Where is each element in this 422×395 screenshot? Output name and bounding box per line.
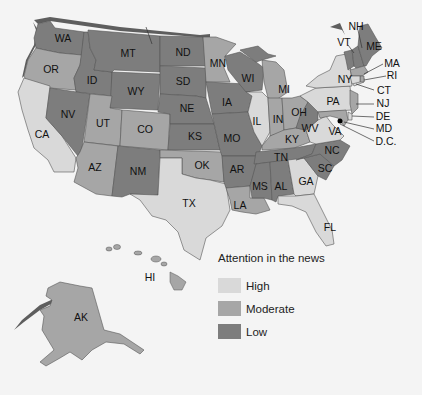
label-vt: VT [337, 36, 351, 48]
legend-label-moderate: Moderate [246, 303, 295, 315]
label-sd: SD [176, 75, 191, 87]
legend-item-moderate: Moderate [218, 297, 418, 320]
label-ks: KS [188, 130, 202, 142]
label-wi: WI [242, 72, 255, 84]
dc-marker [338, 119, 343, 124]
legend-label-low: Low [246, 326, 267, 338]
label-va: VA [328, 125, 341, 137]
label-me: ME [366, 40, 382, 52]
label-mn: MN [210, 57, 226, 69]
label-az: AZ [88, 161, 102, 173]
state-hi[interactable] [106, 245, 186, 291]
label-wv: WV [302, 122, 319, 134]
label-al: AL [275, 180, 288, 192]
label-ct: CT [377, 84, 392, 96]
label-nv: NV [61, 108, 76, 120]
label-ga: GA [298, 175, 313, 187]
label-mo: MO [224, 132, 241, 144]
legend-swatch-moderate [218, 301, 241, 316]
state-ri[interactable] [360, 76, 364, 82]
label-id: ID [87, 74, 98, 86]
legend-swatch-low [218, 324, 241, 339]
label-nd: ND [175, 46, 191, 58]
label-hi: HI [145, 271, 156, 283]
label-la: LA [234, 199, 247, 211]
label-ca: CA [35, 128, 50, 140]
label-nc: NC [324, 144, 340, 156]
state-de[interactable] [348, 112, 352, 120]
state-ma[interactable] [350, 66, 368, 76]
label-il: IL [253, 115, 262, 127]
state-ak[interactable] [40, 282, 144, 366]
label-oh: OH [291, 106, 307, 118]
label-sc: SC [318, 162, 333, 174]
label-ok: OK [194, 159, 209, 171]
label-tn: TN [274, 151, 288, 163]
label-ms: MS [252, 180, 268, 192]
label-ky: KY [285, 133, 299, 145]
label-tx: TX [182, 197, 195, 209]
label-ia: IA [222, 96, 232, 108]
label-fl: FL [324, 221, 336, 233]
legend: Attention in the news High Moderate Low [218, 252, 418, 343]
label-nj: NJ [377, 97, 390, 109]
label-wy: WY [128, 85, 145, 97]
legend-label-high: High [246, 280, 270, 292]
label-pa: PA [326, 95, 339, 107]
label-ri: RI [387, 69, 398, 81]
label-ma: MA [384, 57, 400, 69]
state-nj[interactable] [350, 90, 358, 114]
label-nh: NH [348, 20, 363, 32]
label-ut: UT [96, 117, 111, 129]
legend-item-low: Low [218, 320, 418, 343]
label-ne: NE [180, 102, 195, 114]
label-mt: MT [120, 47, 136, 59]
label-or: OR [43, 63, 59, 75]
label-wa: WA [55, 32, 72, 44]
label-ny: NY [338, 73, 353, 85]
label-dc: D.C. [376, 135, 397, 147]
legend-item-high: High [218, 274, 418, 297]
label-md: MD [376, 122, 393, 134]
legend-title: Attention in the news [218, 252, 418, 264]
label-nm: NM [130, 165, 146, 177]
label-ar: AR [230, 163, 245, 175]
label-de: DE [376, 110, 391, 122]
label-co: CO [137, 123, 153, 135]
label-mi: MI [278, 83, 290, 95]
legend-swatch-high [218, 278, 241, 293]
label-in: IN [273, 113, 284, 125]
label-ak: AK [74, 311, 88, 323]
